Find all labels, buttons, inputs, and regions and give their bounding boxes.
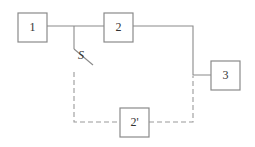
block-1-label: 1 xyxy=(30,20,36,34)
block-3: 3 xyxy=(211,61,240,90)
block-2-label: 2 xyxy=(116,20,122,34)
block-3-label: 3 xyxy=(223,68,229,82)
block-diagram: S 1 2 3 2' xyxy=(0,0,255,147)
switch-label: S xyxy=(78,48,84,62)
block-2-prime: 2' xyxy=(120,108,149,137)
dashed-wire-switch-to-2prime xyxy=(74,72,120,122)
wire-2-to-3 xyxy=(133,26,211,75)
block-1: 1 xyxy=(18,13,47,42)
dashed-wire-2prime-to-3 xyxy=(149,76,193,122)
block-2-prime-label: 2' xyxy=(130,115,138,129)
block-2: 2 xyxy=(104,13,133,42)
